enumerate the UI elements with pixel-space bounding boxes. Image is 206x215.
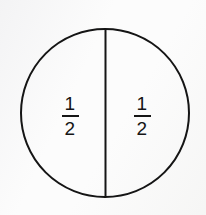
fraction-label-right-half: 1 2: [125, 94, 159, 138]
fraction-label-left-half: 1 2: [53, 94, 87, 138]
circle-diagram: [0, 0, 206, 215]
fraction-numerator: 1: [125, 94, 159, 114]
fraction-bar: [134, 115, 151, 117]
fraction-denominator: 2: [125, 119, 159, 138]
fraction-numerator: 1: [53, 94, 87, 114]
fraction-bar: [62, 115, 79, 117]
fraction-denominator: 2: [53, 119, 87, 138]
fraction-circle-figure: 1 2 1 2: [0, 0, 206, 215]
